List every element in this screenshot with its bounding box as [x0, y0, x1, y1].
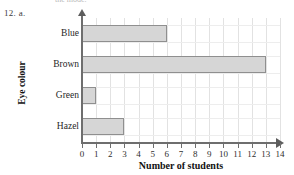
x-axis-tick	[223, 143, 224, 148]
grid-line-horizontal	[82, 73, 280, 74]
category-label-hazel: Hazel	[3, 121, 79, 131]
x-axis-tick	[238, 143, 239, 148]
x-axis-tick	[96, 143, 97, 148]
grid-line-horizontal	[82, 135, 280, 136]
grid-line-vertical	[280, 18, 281, 142]
grid-line-vertical	[195, 18, 196, 142]
x-axis-tick	[139, 143, 140, 148]
x-axis-tick	[252, 143, 253, 148]
grid-line-vertical	[266, 18, 267, 142]
category-label-green: Green	[3, 90, 79, 100]
x-axis-tick	[124, 143, 125, 148]
bar-blue	[82, 25, 167, 42]
x-axis-title: Number of students	[82, 160, 280, 171]
category-axis-labels: BlueBrownGreenHazel	[0, 18, 79, 142]
x-axis-tick	[153, 143, 154, 148]
bar-brown	[82, 56, 266, 73]
x-axis-tick	[82, 143, 83, 148]
grid-line-vertical	[252, 18, 253, 142]
grid-line-horizontal	[82, 42, 280, 43]
y-axis-line	[81, 14, 83, 143]
grid-line-vertical	[167, 18, 168, 142]
plot-area	[82, 18, 280, 142]
bar-green	[82, 87, 96, 104]
grid-line-horizontal	[82, 87, 280, 88]
x-axis-tick	[181, 143, 182, 148]
y-axis-title: Eye colour	[17, 47, 27, 119]
grid-line-vertical	[209, 18, 210, 142]
bar-hazel	[82, 118, 124, 135]
bar-chart: BlueBrownGreenHazel Eye colour Number of…	[0, 0, 294, 175]
x-axis-tick	[110, 143, 111, 148]
grid-line-horizontal	[82, 104, 280, 105]
grid-line-vertical	[238, 18, 239, 142]
category-label-brown: Brown	[3, 59, 79, 69]
y-axis-arrow-icon	[78, 9, 86, 16]
x-axis-tick	[280, 143, 281, 148]
x-axis-tick	[195, 143, 196, 148]
x-axis-tick	[209, 143, 210, 148]
grid-line-vertical	[181, 18, 182, 142]
x-axis-tick-label: 14	[272, 149, 288, 159]
grid-line-vertical	[223, 18, 224, 142]
category-label-blue: Blue	[3, 28, 79, 38]
x-axis-tick	[266, 143, 267, 148]
x-axis-tick	[167, 143, 168, 148]
